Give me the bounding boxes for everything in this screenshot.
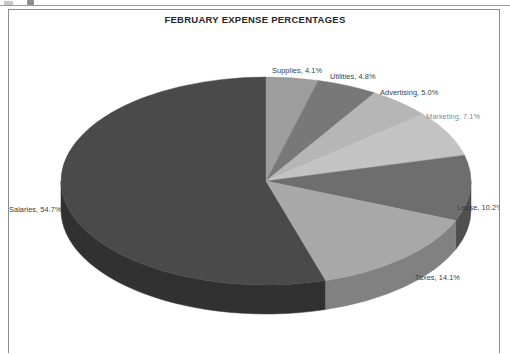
pie-label-salaries: Salaries, 54.7% [9, 205, 62, 214]
pie-label-taxes: Taxes, 14.1% [415, 273, 460, 282]
pie-chart-svg [8, 9, 500, 353]
pie-label-marketing: Marketing, 7.1% [426, 112, 480, 121]
pie-plot-area [8, 9, 500, 353]
pie-label-utilities: Utilities, 4.8% [330, 72, 376, 81]
pie-label-lease: Lease, 10.2% [457, 203, 500, 212]
chart-object-frame[interactable]: FEBRUARY EXPENSE PERCENTAGES Salaries, 5… [8, 9, 500, 353]
cut-off-toolbar-row [0, 0, 510, 7]
pie-label-advertising: Advertising, 5.0% [380, 88, 438, 97]
pie-slice-tops [61, 77, 471, 285]
pie-label-supplies: Supplies, 4.1% [272, 66, 322, 75]
cut-off-divider [0, 5, 510, 6]
